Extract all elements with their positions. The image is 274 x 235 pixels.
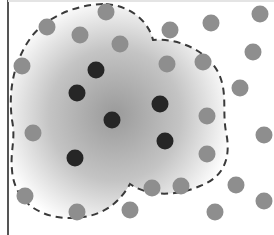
core-point	[104, 112, 121, 129]
border-point	[252, 6, 269, 23]
border-point	[14, 58, 31, 75]
border-point	[112, 36, 129, 53]
border-point	[228, 177, 245, 194]
border-point	[232, 80, 249, 97]
border-point	[144, 180, 161, 197]
border-point	[25, 125, 42, 142]
density-region	[0, 0, 274, 235]
border-point	[203, 15, 220, 32]
border-point	[207, 204, 224, 221]
border-point	[159, 56, 176, 73]
cluster-diagram	[0, 0, 274, 235]
border-point	[245, 44, 262, 61]
border-point	[72, 27, 89, 44]
core-point	[152, 96, 169, 113]
border-point	[39, 19, 56, 36]
core-point	[69, 85, 86, 102]
border-point	[195, 54, 212, 71]
border-point	[98, 4, 115, 21]
border-point	[69, 204, 86, 221]
border-point	[17, 188, 34, 205]
border-point	[256, 127, 273, 144]
diagram-canvas	[0, 0, 274, 235]
core-point	[157, 133, 174, 150]
border-point	[173, 178, 190, 195]
border-point	[162, 22, 179, 39]
border-point	[122, 202, 139, 219]
core-point	[88, 62, 105, 79]
border-point	[199, 146, 216, 163]
border-point	[199, 108, 216, 125]
border-point	[256, 193, 273, 210]
core-point	[67, 150, 84, 167]
